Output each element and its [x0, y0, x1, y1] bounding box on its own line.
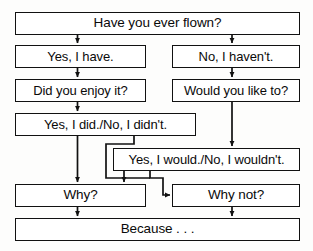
node-label: Yes, I did./No, I didn't. [44, 118, 167, 132]
node-yes-i-would-no-i-wouldnt: Yes, I would./No, I wouldn't. [113, 148, 300, 171]
connector-yes-would-to-why-not-elbow [150, 171, 170, 195]
node-why-not: Why not? [172, 184, 300, 207]
node-label: Would you like to? [184, 84, 288, 98]
node-why: Why? [15, 184, 146, 207]
node-label: Have you ever flown? [94, 16, 222, 31]
node-yes-i-have: Yes, I have. [15, 45, 146, 68]
node-label: Yes, I would./No, I wouldn't. [129, 153, 285, 167]
node-did-you-enjoy-it: Did you enjoy it? [15, 79, 146, 102]
node-label: Yes, I have. [47, 50, 113, 64]
node-yes-i-did-no-i-didnt: Yes, I did./No, I didn't. [15, 113, 196, 136]
node-label: No, I haven't. [199, 50, 274, 64]
node-label: Why? [63, 188, 97, 203]
node-because: Because . . . [15, 218, 300, 241]
node-have-you-ever-flown: Have you ever flown? [15, 12, 300, 35]
node-label: Because . . . [121, 222, 195, 237]
flowchart-diagram: Have you ever flown?Yes, I have.No, I ha… [0, 0, 313, 251]
node-no-i-havent: No, I haven't. [172, 45, 300, 68]
node-label: Why not? [208, 188, 264, 203]
node-label: Did you enjoy it? [33, 84, 127, 98]
node-would-you-like-to: Would you like to? [172, 79, 300, 102]
